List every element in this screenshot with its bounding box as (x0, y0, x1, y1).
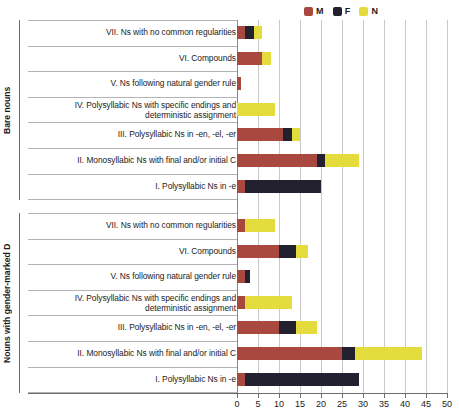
row-label: III. Polysyllabic Ns in -en, -el, -er (31, 129, 236, 140)
group-axis-line-1 (19, 213, 20, 393)
group-axis-label-1: Nouns with gender-marked D (2, 213, 16, 393)
legend-item-f: F (333, 7, 351, 16)
row-separator (28, 367, 237, 368)
row-separator (28, 20, 237, 21)
row-label: II. Monosyllabic Ns with final and/or in… (31, 155, 236, 166)
bar-segment-f (317, 154, 325, 167)
row-separator (28, 148, 237, 149)
stacked-bar (237, 270, 447, 283)
x-tick-20 (321, 394, 322, 398)
bar-segment-n (245, 219, 274, 232)
x-tick-15 (300, 394, 301, 398)
x-tick-45 (426, 394, 427, 398)
stacked-bar (237, 219, 447, 232)
stacked-bar (237, 52, 447, 65)
stacked-bar (237, 154, 447, 167)
bar-segment-f (279, 245, 296, 258)
bar-segment-m (237, 219, 245, 232)
bar-segment-n (237, 103, 275, 116)
bar-segment-m (237, 347, 342, 360)
bar-segment-m (237, 296, 245, 309)
stacked-bar (237, 128, 447, 141)
row-separator (28, 213, 237, 214)
stacked-bar (237, 77, 447, 90)
stacked-bar (237, 103, 447, 116)
row-label: III. Polysyllabic Ns in -en, -el, -er (31, 322, 236, 333)
row-label: VII. Ns with no common regularities (31, 220, 236, 231)
row-label: VI. Compounds (31, 53, 236, 64)
legend-item-m: M (304, 7, 324, 16)
bar-segment-f (279, 321, 296, 334)
x-tick-label-50: 50 (432, 399, 459, 409)
stacked-bar (237, 245, 447, 258)
x-axis-line (28, 393, 448, 394)
row-separator (28, 264, 237, 265)
bar-segment-m (237, 128, 283, 141)
stacked-bar (237, 347, 447, 360)
bar-segment-n (355, 347, 422, 360)
x-tick-35 (384, 394, 385, 398)
group-axis-line-0 (19, 20, 20, 200)
bar-segment-n (296, 245, 309, 258)
row-separator (28, 290, 237, 291)
bar-segment-f (342, 347, 355, 360)
legend-item-n: N (359, 7, 378, 16)
row-separator (28, 199, 237, 200)
row-label: VI. Compounds (31, 246, 236, 257)
x-tick-0 (237, 394, 238, 398)
x-tick-25 (342, 394, 343, 398)
legend-label-f: F (345, 7, 351, 16)
legend-swatch-n (359, 7, 368, 16)
bar-segment-m (237, 26, 245, 39)
x-tick-40 (405, 394, 406, 398)
row-separator (28, 315, 237, 316)
row-label: V. Ns following natural gender rule (31, 78, 236, 89)
bar-segment-m (237, 270, 245, 283)
row-label: VII. Ns with no common regularities (31, 27, 236, 38)
chart-rows: VII. Ns with no common regularitiesVI. C… (0, 20, 459, 393)
row-label: IV. Polysyllabic Ns with specific ending… (31, 293, 236, 314)
row-separator (28, 174, 237, 175)
bar-segment-f (245, 270, 249, 283)
bar-segment-n (296, 321, 317, 334)
bar-segment-f (283, 128, 291, 141)
x-tick-30 (363, 394, 364, 398)
group-axis-label-0: Bare nouns (2, 20, 16, 200)
bar-segment-n (245, 296, 291, 309)
legend-label-m: M (316, 7, 324, 16)
row-separator (28, 97, 237, 98)
x-tick-10 (279, 394, 280, 398)
row-label: IV. Polysyllabic Ns with specific ending… (31, 100, 236, 121)
legend-swatch-m (304, 7, 313, 16)
bar-segment-m (237, 245, 279, 258)
bar-segment-m (237, 52, 262, 65)
row-separator (28, 341, 237, 342)
bar-segment-n (325, 154, 359, 167)
legend-swatch-f (333, 7, 342, 16)
row-separator (28, 239, 237, 240)
bar-segment-m (237, 154, 317, 167)
bar-segment-m (237, 373, 245, 386)
row-separator (28, 46, 237, 47)
bar-segment-n (262, 52, 270, 65)
x-tick-50 (447, 394, 448, 398)
bar-segment-m (237, 180, 245, 193)
chart-legend: M F N (304, 4, 378, 18)
bar-segment-m (237, 77, 241, 90)
row-label: II. Monosyllabic Ns with final and/or in… (31, 348, 236, 359)
stacked-bar-chart: M F N VII. Ns with no common regularitie… (0, 0, 459, 420)
bar-segment-f (245, 26, 253, 39)
bar-segment-n (292, 128, 300, 141)
stacked-bar (237, 180, 447, 193)
stacked-bar (237, 26, 447, 39)
row-separator (28, 122, 237, 123)
bar-segment-f (245, 180, 321, 193)
row-label: V. Ns following natural gender rule (31, 271, 236, 282)
row-label: I. Polysyllabic Ns in -e (31, 374, 236, 385)
row-separator (28, 71, 237, 72)
stacked-bar (237, 296, 447, 309)
row-label: I. Polysyllabic Ns in -e (31, 181, 236, 192)
legend-label-n: N (371, 7, 378, 16)
bar-segment-f (245, 373, 358, 386)
bar-segment-m (237, 321, 279, 334)
